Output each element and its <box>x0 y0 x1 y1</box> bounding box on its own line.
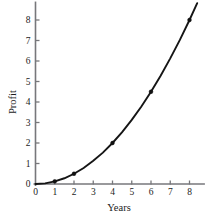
y-axis-tick-labels: 012345678 <box>26 15 31 189</box>
x-tick-label-1: 1 <box>52 187 57 197</box>
x-tick-label-7: 7 <box>168 187 173 197</box>
data-point-marker <box>188 18 192 22</box>
chart-plot-area: 012345678 012345678 Years Profit <box>0 0 211 215</box>
y-tick-label-1: 1 <box>26 159 31 169</box>
data-point-markers <box>53 18 192 183</box>
x-tick-label-6: 6 <box>149 187 154 197</box>
x-tick-label-0: 0 <box>33 187 38 197</box>
x-tick-label-4: 4 <box>110 187 115 197</box>
y-axis: 012345678 <box>26 2 40 190</box>
x-tick-label-5: 5 <box>129 187 134 197</box>
profit-curve-line <box>36 3 198 184</box>
y-tick-label-6: 6 <box>26 56 31 66</box>
x-tick-label-8: 8 <box>187 187 192 197</box>
y-tick-label-8: 8 <box>26 15 31 25</box>
y-tick-label-3: 3 <box>26 118 31 128</box>
x-axis-tick-labels: 012345678 <box>33 187 192 197</box>
data-point-marker <box>53 179 57 183</box>
x-tick-label-2: 2 <box>72 187 77 197</box>
y-axis-title: Profit <box>7 90 18 114</box>
x-tick-label-3: 3 <box>91 187 96 197</box>
profit-vs-years-chart: 012345678 012345678 Years Profit <box>0 0 211 215</box>
x-axis-title: Years <box>107 202 130 213</box>
data-point-marker <box>149 90 153 94</box>
x-axis: 012345678 <box>33 181 205 198</box>
y-tick-label-0: 0 <box>26 179 31 189</box>
data-point-marker <box>111 141 115 145</box>
y-tick-label-7: 7 <box>26 36 31 46</box>
y-tick-label-2: 2 <box>26 138 31 148</box>
y-tick-label-4: 4 <box>26 97 31 107</box>
y-tick-label-5: 5 <box>26 77 31 87</box>
data-point-marker <box>72 172 76 176</box>
